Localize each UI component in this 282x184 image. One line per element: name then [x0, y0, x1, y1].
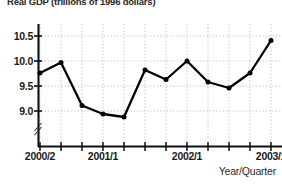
data-series-line [40, 41, 271, 118]
data-point [80, 103, 85, 108]
data-point [227, 86, 232, 91]
gdp-line-chart: Real GDP (trillions of 1996 dollars) 10.… [0, 0, 282, 184]
data-point-markers [38, 38, 274, 120]
y-tick-label-10-5: 10.5 [14, 31, 33, 42]
data-point [164, 77, 169, 82]
y-tick-label-9-5: 9.5 [19, 81, 33, 92]
data-point [59, 60, 64, 65]
chart-svg [38, 24, 282, 148]
x-tick-label-2000-2: 2000/2 [25, 150, 55, 162]
plot-area [38, 24, 282, 147]
x-axis-labels: 2000/2 2001/1 2002/1 2003/1 [0, 150, 282, 166]
horizontal-gridlines [38, 36, 282, 111]
data-point [248, 71, 253, 76]
y-tick-label-10-0: 10.0 [14, 56, 33, 67]
x-axis-title: Year/Quarter [219, 165, 276, 177]
data-point [38, 71, 43, 76]
vertical-gridlines [40, 24, 271, 147]
data-point [269, 38, 274, 43]
y-tick-label-9-0: 9.0 [19, 106, 33, 117]
data-point [101, 112, 106, 117]
x-tick-label-2003-1: 2003/1 [256, 150, 282, 162]
data-point [122, 115, 127, 120]
data-point [185, 59, 190, 64]
data-point [206, 80, 211, 85]
data-point [143, 68, 148, 73]
x-tick-label-2001-1: 2001/1 [88, 150, 118, 162]
x-tick-label-2002-1: 2002/1 [172, 150, 202, 162]
